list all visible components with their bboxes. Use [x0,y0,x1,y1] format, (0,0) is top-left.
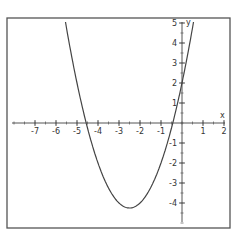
svg-text:-3: -3 [115,127,123,136]
svg-text:-5: -5 [73,127,81,136]
svg-text:2: 2 [172,79,177,88]
svg-text:-1: -1 [157,127,165,136]
parabola-chart: -7-6-5-4-3-2-11254321-1-2-3-4 x y [0,0,241,238]
svg-text:3: 3 [172,59,177,68]
svg-text:-7: -7 [31,127,39,136]
x-axis-label: x [220,111,225,120]
axes [12,22,225,223]
svg-text:-4: -4 [169,199,177,208]
svg-text:-6: -6 [52,127,60,136]
svg-text:2: 2 [221,127,226,136]
y-axis-label: y [186,18,191,27]
svg-text:-2: -2 [169,159,177,168]
svg-text:-4: -4 [94,127,102,136]
svg-text:-1: -1 [169,139,177,148]
svg-text:1: 1 [200,127,205,136]
svg-text:5: 5 [172,19,177,28]
tick-labels: -7-6-5-4-3-2-11254321-1-2-3-4 [31,19,227,208]
svg-text:-2: -2 [136,127,144,136]
svg-text:4: 4 [172,39,177,48]
svg-text:-3: -3 [169,179,177,188]
